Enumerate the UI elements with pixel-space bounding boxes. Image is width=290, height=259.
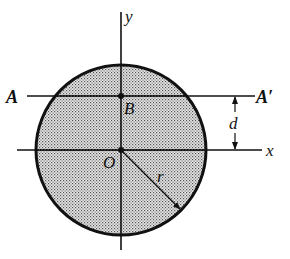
- label-a-prime: A′: [255, 87, 273, 107]
- label-d: d: [229, 114, 238, 133]
- label-a: A: [5, 87, 18, 107]
- label-r: r: [157, 167, 164, 186]
- x-axis-label: x: [265, 141, 274, 160]
- circle-section-diagram: y x A A′ B O d r: [0, 0, 290, 259]
- y-axis-label: y: [123, 7, 133, 26]
- label-o: O: [103, 153, 115, 172]
- label-b: B: [124, 99, 135, 118]
